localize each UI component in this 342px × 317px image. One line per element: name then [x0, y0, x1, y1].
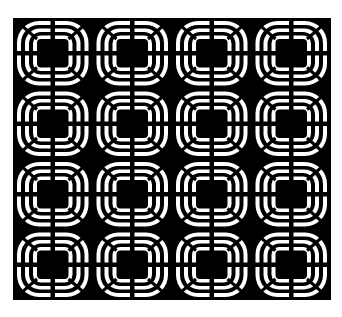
op-art-pattern: [0, 0, 342, 317]
